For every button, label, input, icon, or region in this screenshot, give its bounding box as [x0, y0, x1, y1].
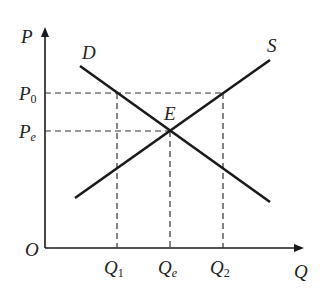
supply-curve-label: S [267, 36, 277, 55]
supply-curve [75, 60, 270, 198]
equilibrium-label: E [164, 104, 176, 123]
quantity-label-qe: Qe [158, 258, 177, 279]
price-label-pe: Pe [19, 122, 36, 143]
price-label-p0: P0 [19, 84, 37, 105]
supply-demand-diagram: P Q O D S E P0 Pe Q1 Qe Q2 [0, 0, 320, 294]
quantity-label-q1: Q1 [104, 258, 124, 279]
demand-curve-label: D [82, 43, 96, 62]
quantity-label-q2: Q2 [210, 258, 230, 279]
y-axis-label: P [21, 27, 33, 46]
x-axis-label: Q [294, 262, 308, 281]
x-axis-arrow-icon [294, 244, 304, 252]
origin-label: O [25, 240, 39, 259]
y-axis-arrow-icon [41, 27, 49, 37]
demand-curve [80, 66, 270, 202]
